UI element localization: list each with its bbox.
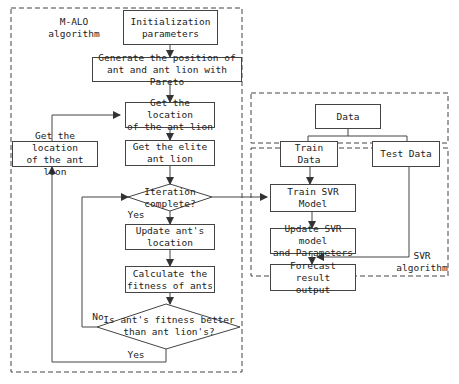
fitness-better-label: Is ant's fitness better than ant lion's? <box>100 314 238 338</box>
train-svr-model-node: Train SVR Model <box>270 184 356 212</box>
get-location-main-node: Get the location of the ant lion <box>125 102 215 128</box>
iteration-yes-label: Yes <box>124 209 148 221</box>
iteration-complete-label: Iteration complete? <box>130 186 210 210</box>
generate-position-node: Generate the position of ant and ant lio… <box>92 57 242 82</box>
update-svr-model-node: Update SVR model and Parameters <box>270 228 356 254</box>
data-node: Data <box>315 104 381 129</box>
flowchart-canvas: M-ALO algorithm SVR algorithm Initializa… <box>0 0 459 384</box>
update-ant-location-node: Update ant's location <box>125 224 215 250</box>
train-data-node: Train Data <box>280 141 338 167</box>
get-location-side-node: Get the location of the ant lion <box>12 141 98 167</box>
fitness-no-label: No <box>90 311 106 323</box>
malo-group-label: M-ALO algorithm <box>44 16 104 40</box>
calculate-fitness-node: Calculate the fitness of ants <box>125 266 215 293</box>
forecast-output-node: Forecast result output <box>270 264 356 291</box>
svr-group-label: SVR algorithm <box>394 250 450 274</box>
init-parameters-node: Initialization parameters <box>123 10 218 45</box>
test-data-node: Test Data <box>372 141 440 167</box>
get-elite-node: Get the elite ant lion <box>125 140 215 166</box>
fitness-yes-label: Yes <box>124 349 148 361</box>
